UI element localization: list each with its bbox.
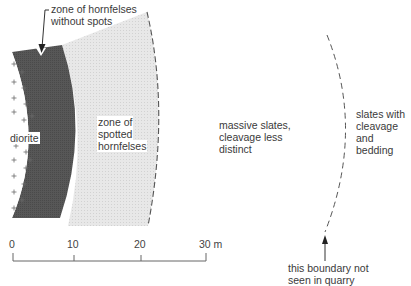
label-line: slates with [356,108,405,120]
label-massive-slates: massive slates, cleavage less distinct [219,119,291,155]
arrowhead-boundary [322,235,328,244]
label-hornfels-without-spots: zone of hornfelses without spots [51,3,137,27]
scale-bar [13,253,206,261]
label-slates-cleavage-bedding: slates with cleavage and bedding [356,108,405,156]
label-line: cleavage less [219,131,291,143]
label-line: spotted [97,128,133,140]
leader-line-hornfels [42,10,49,48]
scale-tick-30: 30 m [199,238,222,250]
label-line: diorite [9,132,40,144]
label-line: bedding [356,144,405,156]
label-line: seen in quarry [288,274,369,286]
boundary-outer-slates [325,35,346,232]
label-spotted-hornfels: zone of spotted hornfelses [97,116,147,152]
label-line: distinct [219,143,291,155]
label-line: zone of [97,116,133,128]
label-line: without spots [51,15,137,27]
label-line: massive slates, [219,119,291,131]
scale-tick-10: 10 [67,238,79,250]
label-line: cleavage [356,120,405,132]
diagram: zone of hornfelses without spots diorite… [0,0,411,286]
label-line: and [356,132,405,144]
label-boundary-note: this boundary not seen in quarry [288,262,369,286]
scale-tick-20: 20 [134,238,146,250]
scale-tick-0: 0 [9,238,15,250]
label-line: zone of hornfelses [51,3,137,15]
label-line: hornfelses [97,140,147,152]
label-line: this boundary not [288,262,369,274]
label-diorite: diorite [9,132,40,144]
